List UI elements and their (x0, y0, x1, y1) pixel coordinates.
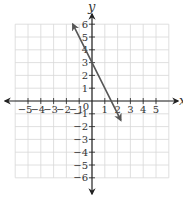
x-tick-label: 5 (153, 104, 159, 115)
y-tick-label: −4 (73, 147, 88, 158)
y-tick-label: 3 (82, 57, 88, 68)
y-axis-label: y (87, 0, 96, 14)
coordinate-plane: −5−4−3−2−112345654321−1−2−3−4−5−60 x y (0, 0, 183, 201)
y-tick-label: 2 (82, 70, 88, 81)
y-tick-label: 1 (82, 83, 88, 94)
y-tick-label: −2 (73, 121, 88, 132)
x-axis-label: x (179, 93, 183, 108)
y-tick-label: −3 (73, 134, 88, 145)
y-tick-label: 5 (82, 32, 88, 43)
y-tick-label: −6 (73, 172, 88, 183)
origin-label: 0 (83, 101, 89, 112)
x-tick-label: 1 (102, 104, 108, 115)
x-tick-label: 3 (127, 104, 133, 115)
y-tick-label: 6 (82, 19, 88, 30)
x-tick-label: 4 (140, 104, 146, 115)
y-tick-label: −5 (73, 160, 88, 171)
